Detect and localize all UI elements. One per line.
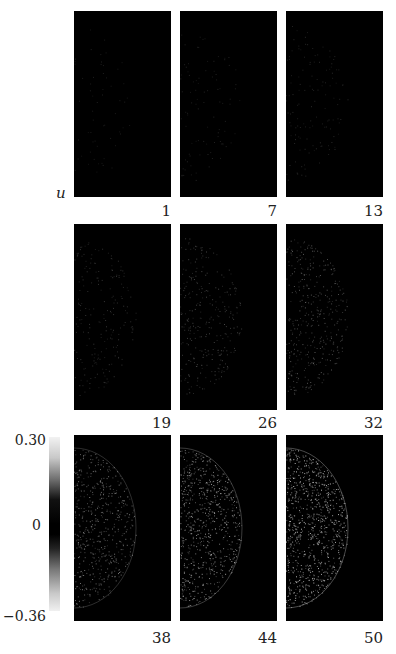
frame-label: 32 (343, 415, 383, 431)
frame-panel-44 (180, 435, 277, 621)
frame-label: 13 (343, 203, 383, 219)
frame-image (180, 11, 277, 197)
frame-image (180, 435, 277, 621)
frame-panel-26 (180, 224, 277, 410)
frame-label: 19 (131, 415, 171, 431)
frame-image (286, 435, 383, 621)
frame-image (74, 224, 171, 410)
frame-image (74, 11, 171, 197)
frame-image (286, 11, 383, 197)
frame-panel-19 (74, 224, 171, 410)
frame-image (286, 224, 383, 410)
frame-label: 7 (237, 203, 277, 219)
frame-panel-13 (286, 11, 383, 197)
frame-label: 38 (131, 630, 171, 646)
frame-panel-38 (74, 435, 171, 621)
colorbar-max-label: 0.30 (0, 432, 46, 448)
colorbar-mid-label: 0 (0, 517, 41, 533)
colorbar (49, 437, 60, 611)
frame-image (74, 435, 171, 621)
frame-label: 50 (343, 630, 383, 646)
frame-label: 1 (131, 203, 171, 219)
frame-panel-1 (74, 11, 171, 197)
row-label-u: u (56, 184, 66, 202)
frame-panel-32 (286, 224, 383, 410)
frame-panel-7 (180, 11, 277, 197)
frame-panel-50 (286, 435, 383, 621)
frame-label: 44 (237, 630, 277, 646)
frame-image (180, 224, 277, 410)
frame-label: 26 (237, 415, 277, 431)
colorbar-min-label: −0.36 (0, 608, 46, 624)
